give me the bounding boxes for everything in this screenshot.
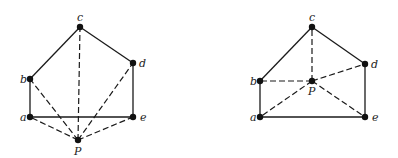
vertex-label-a: a bbox=[20, 111, 27, 124]
vertex-label-d: d bbox=[139, 57, 146, 70]
left-figure: abcdeP bbox=[20, 11, 147, 158]
vertex-a bbox=[257, 114, 263, 120]
edge-c-d bbox=[312, 27, 365, 64]
vertex-label-c: c bbox=[77, 11, 83, 24]
vertex-d bbox=[130, 60, 136, 66]
edge-c-d bbox=[80, 27, 133, 63]
vertex-label-P: P bbox=[73, 145, 82, 158]
edge-b-c bbox=[260, 27, 312, 81]
vertex-P bbox=[309, 78, 315, 84]
dashed-edge-P-a bbox=[260, 81, 312, 117]
vertex-label-P: P bbox=[307, 85, 316, 98]
vertex-label-a: a bbox=[250, 111, 257, 124]
vertex-b bbox=[27, 76, 33, 82]
dashed-edge-P-d bbox=[312, 64, 365, 81]
vertex-e bbox=[362, 114, 368, 120]
vertex-label-e: e bbox=[140, 111, 147, 124]
vertex-label-e: e bbox=[372, 111, 379, 124]
dashed-edge-P-e bbox=[312, 81, 365, 117]
vertex-d bbox=[362, 61, 368, 67]
right-figure: abcdeP bbox=[250, 11, 379, 124]
dashed-edge-P-c bbox=[78, 27, 80, 140]
vertex-a bbox=[27, 114, 33, 120]
vertex-c bbox=[77, 24, 83, 30]
diagram-canvas: abcdeP abcdeP bbox=[0, 0, 398, 158]
vertex-e bbox=[130, 114, 136, 120]
vertex-label-b: b bbox=[250, 75, 257, 88]
dashed-edge-P-a bbox=[30, 117, 78, 140]
vertex-label-d: d bbox=[371, 58, 378, 71]
vertex-b bbox=[257, 78, 263, 84]
vertex-P bbox=[75, 137, 81, 143]
vertex-label-c: c bbox=[309, 11, 315, 24]
vertex-c bbox=[309, 24, 315, 30]
edge-b-c bbox=[30, 27, 80, 79]
vertex-label-b: b bbox=[20, 73, 27, 86]
dashed-edge-P-b bbox=[30, 79, 78, 140]
